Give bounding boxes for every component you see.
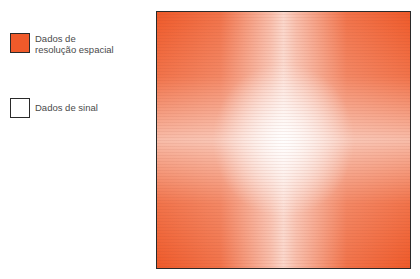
k-space-scan-lines xyxy=(157,12,410,268)
white-swatch-icon xyxy=(10,98,30,118)
legend-label-spatial-resolution: Dados de resolução espacial xyxy=(35,33,114,55)
legend-label-signal: Dados de sinal xyxy=(35,102,98,113)
orange-swatch-icon xyxy=(10,33,30,53)
legend-item-spatial-resolution: Dados de resolução espacial xyxy=(10,33,114,55)
legend-item-signal: Dados de sinal xyxy=(10,98,98,118)
k-space-diagram xyxy=(156,11,411,269)
legend-label-line2: resolução espacial xyxy=(35,44,114,55)
legend-label-line1: Dados de xyxy=(35,33,114,44)
